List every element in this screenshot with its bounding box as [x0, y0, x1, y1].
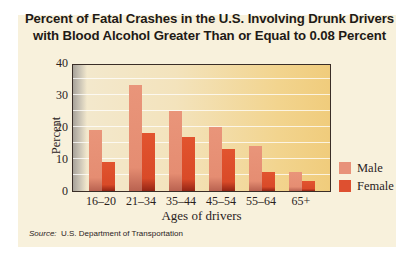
legend-label-male: Male — [357, 161, 383, 176]
y-tick-label: 40 — [48, 56, 68, 71]
bar-male-55–64 — [249, 146, 262, 191]
bar-male-45–54 — [209, 127, 222, 191]
gridline — [73, 78, 330, 79]
bar-female-65+ — [302, 181, 315, 191]
bar-male-65+ — [289, 172, 302, 191]
x-tick-label: 21–34 — [121, 194, 161, 209]
bar-female-16–20 — [102, 162, 115, 191]
legend: Male Female — [339, 159, 394, 195]
y-tick-label: 20 — [48, 120, 68, 135]
bar-male-21–34 — [129, 85, 142, 191]
source-label: Source: — [29, 229, 57, 238]
legend-item-female: Female — [339, 177, 394, 195]
chart-title: Percent of Fatal Crashes in the U.S. Inv… — [0, 10, 419, 44]
bar-male-16–20 — [89, 130, 102, 191]
source-note: Source: U.S. Department of Transportatio… — [29, 229, 183, 238]
bar-male-35–44 — [169, 111, 182, 191]
bar-female-45–54 — [222, 149, 235, 191]
chart-title-line-1: Percent of Fatal Crashes in the U.S. Inv… — [0, 10, 419, 27]
legend-swatch-female — [339, 180, 351, 192]
x-tick-label: 65+ — [281, 194, 321, 209]
gridline — [73, 94, 330, 95]
source-text: U.S. Department of Transportation — [61, 229, 183, 238]
plot-area — [72, 64, 331, 192]
legend-label-female: Female — [357, 179, 394, 194]
x-tick-label: 16–20 — [81, 194, 121, 209]
x-tick-label: 45–54 — [201, 194, 241, 209]
bar-female-35–44 — [182, 137, 195, 191]
gridline — [73, 142, 330, 143]
chart-title-line-2: with Blood Alcohol Greater Than or Equal… — [0, 27, 419, 44]
y-tick-label: 30 — [48, 88, 68, 103]
x-axis-label: Ages of drivers — [72, 208, 331, 224]
x-tick-label: 35–44 — [161, 194, 201, 209]
x-tick-label: 55–64 — [241, 194, 281, 209]
gridline — [73, 158, 330, 159]
gridline — [73, 126, 330, 127]
gridline — [73, 110, 330, 111]
y-tick-label: 0 — [48, 184, 68, 199]
plot-left-shade — [73, 65, 87, 191]
legend-swatch-male — [339, 162, 351, 174]
bar-female-55–64 — [262, 172, 275, 191]
bar-female-21–34 — [142, 133, 155, 191]
y-tick-label: 10 — [48, 152, 68, 167]
legend-item-male: Male — [339, 159, 394, 177]
